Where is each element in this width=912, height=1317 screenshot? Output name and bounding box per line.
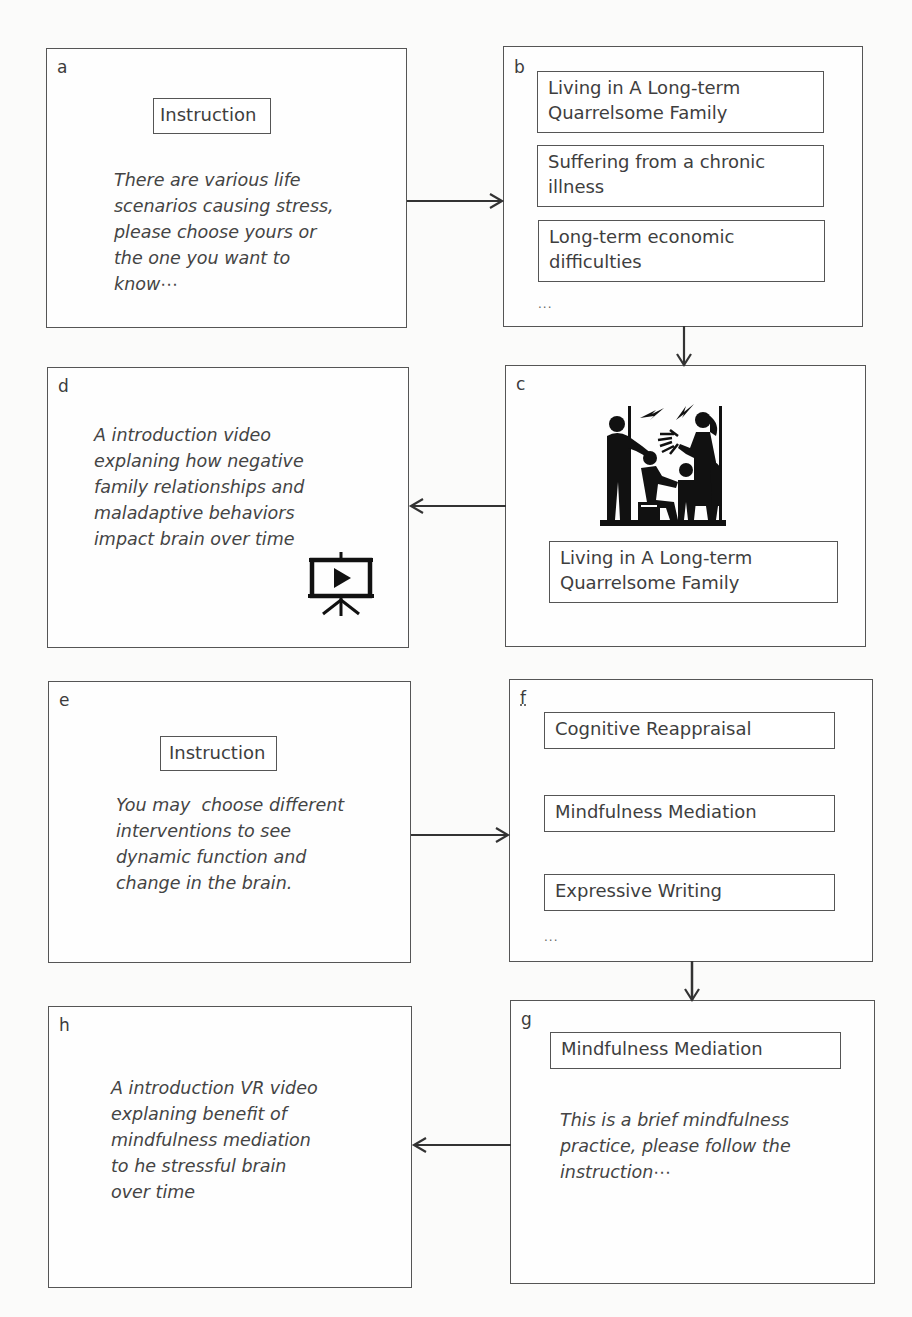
- practice-instruction-text: This is a brief mindfulness practice, pl…: [560, 1107, 791, 1185]
- video-description: A introduction video explaning how negat…: [94, 422, 304, 552]
- video-presentation-icon[interactable]: [305, 548, 377, 620]
- panel-letter: c: [516, 374, 525, 394]
- scenario-option[interactable]: Suffering from a chronic illness: [537, 145, 824, 207]
- panel-h: h A introduction VR video explaning bene…: [48, 1006, 412, 1288]
- arrow-e-to-f: [411, 826, 511, 844]
- intervention-option[interactable]: Mindfulness Mediation: [544, 795, 835, 832]
- instruction-text: You may choose different interventions t…: [116, 792, 344, 896]
- panel-b: b Living in A Long-term Quarrelsome Fami…: [503, 46, 863, 327]
- selected-scenario-label: Living in A Long-term Quarrelsome Family: [549, 541, 838, 603]
- panel-d: d A introduction video explaning how neg…: [47, 367, 409, 648]
- arrow-f-to-g: [683, 961, 701, 1003]
- panel-letter: f: [520, 688, 526, 708]
- panel-letter: e: [59, 690, 69, 710]
- panel-letter: a: [57, 57, 67, 77]
- arrow-c-to-d: [408, 498, 506, 516]
- scenario-option[interactable]: Long-term economic difficulties: [538, 220, 825, 282]
- vr-video-description: A introduction VR video explaning benefi…: [111, 1075, 318, 1205]
- panel-e: e Instruction You may choose different i…: [48, 681, 411, 963]
- panel-c: c Living in A Long-term Quarrelsome Fami…: [505, 365, 866, 647]
- panel-letter: d: [58, 376, 69, 396]
- panel-g: g Mindfulness Mediation This is a brief …: [510, 1000, 875, 1284]
- selected-intervention-label: Mindfulness Mediation: [550, 1032, 841, 1069]
- intervention-option[interactable]: Expressive Writing: [544, 874, 835, 911]
- arrow-b-to-c: [675, 326, 693, 368]
- arrow-g-to-h: [411, 1137, 511, 1155]
- instruction-text: There are various life scenarios causing…: [114, 167, 334, 297]
- instruction-label: Instruction: [153, 98, 271, 134]
- more-options-ellipsis: ...: [544, 930, 558, 944]
- arrow-a-to-b: [407, 192, 505, 210]
- panel-f: f Cognitive Reappraisal Mindfulness Medi…: [509, 679, 873, 962]
- more-options-ellipsis: ...: [538, 297, 552, 311]
- intervention-option[interactable]: Cognitive Reappraisal: [544, 712, 835, 749]
- scenario-option[interactable]: Living in A Long-term Quarrelsome Family: [537, 71, 824, 133]
- panel-letter: g: [521, 1009, 532, 1029]
- panel-letter: h: [59, 1015, 70, 1035]
- panel-letter: b: [514, 57, 525, 77]
- quarrelling-family-icon: [598, 402, 728, 530]
- instruction-label: Instruction: [160, 736, 277, 771]
- panel-a: a Instruction There are various life sce…: [46, 48, 407, 328]
